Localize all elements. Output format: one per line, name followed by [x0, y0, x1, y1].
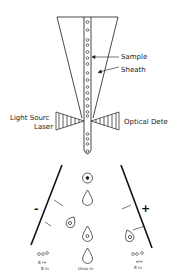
droplet-1 [83, 190, 93, 206]
droplet-right-deflected [126, 230, 135, 242]
cells-in-stream [86, 21, 89, 153]
optical-detector [91, 112, 119, 130]
label-sheath: Sheath [121, 66, 146, 74]
laser-light-source [56, 112, 84, 130]
negative-sign: - [34, 203, 39, 214]
label-optical-detector: Optical Dete [124, 118, 168, 126]
droplet-3 [83, 248, 93, 264]
label-laser: Laser [34, 123, 53, 131]
field-arrows [45, 200, 145, 230]
bottom-right-label-3: B m [134, 265, 142, 270]
bottom-center-label: Unso m [78, 266, 93, 271]
label-light-source: Light Sourc [10, 114, 49, 122]
label-pointers [92, 56, 119, 74]
positive-sign: + [141, 203, 150, 214]
droplet-2 [83, 226, 93, 242]
droplet-left-deflected [66, 217, 75, 228]
bottom-right-label-2: ei+ [136, 259, 143, 264]
bottom-left-label-3: B m [41, 266, 49, 271]
diagram-canvas [0, 0, 175, 279]
droplets [66, 173, 134, 264]
bottom-left-label-2: B I+ [38, 260, 47, 265]
label-sample: Sample [121, 53, 147, 61]
